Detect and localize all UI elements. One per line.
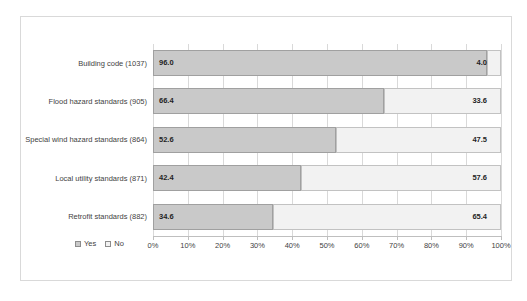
category-axis-labels: Building code (1037)Flood hazard standar… [25,44,147,236]
value-label-no: 4.0 [477,50,487,76]
bar-segment-yes [153,127,336,153]
x-tick-label: 40% [285,241,300,250]
legend-label-yes: Yes [84,239,96,248]
bar-segment-yes [153,88,384,114]
x-tick-mark [292,236,293,240]
x-axis-tick-labels: 0%10%20%30%40%50%60%70%80%90%100% [153,241,501,253]
category-label: Flood hazard standards (905) [25,82,147,120]
bar-segment-no [487,50,501,76]
value-label-yes: 52.6 [159,127,174,153]
x-tick-mark [153,236,154,240]
value-label-no: 57.6 [472,165,487,191]
x-tick-mark [397,236,398,240]
x-tick-mark [223,236,224,240]
x-tick-mark [466,236,467,240]
bar-row: 34.665.4 [153,198,501,236]
bar-row: 42.457.6 [153,159,501,197]
bar-segment-yes [153,165,301,191]
x-tick-label: 100% [491,241,510,250]
x-tick-mark [362,236,363,240]
x-tick-label: 10% [180,241,195,250]
value-label-yes: 42.4 [159,165,174,191]
legend-swatch-no [105,241,111,247]
bar-row: 96.04.0 [153,44,501,82]
x-tick-label: 80% [424,241,439,250]
x-tick-mark [327,236,328,240]
x-tick-label: 20% [215,241,230,250]
category-label: Building code (1037) [25,44,147,82]
category-label: Special wind hazard standards (864) [25,121,147,159]
bar-row: 52.647.5 [153,121,501,159]
category-label: Local utility standards (871) [25,159,147,197]
value-label-yes: 34.6 [159,204,174,230]
x-tick-label: 0% [148,241,159,250]
x-tick-mark [501,236,502,240]
legend-item-no: No [105,239,124,248]
legend: Yes No [75,239,124,248]
bar-segment-no [273,204,501,230]
plot-area: 96.04.066.433.652.647.542.457.634.665.4 [153,44,501,236]
chart-figure: 96.04.066.433.652.647.542.457.634.665.4 … [0,0,527,301]
legend-swatch-yes [75,241,81,247]
bar-row: 66.433.6 [153,82,501,120]
bar-segment-no [301,165,501,191]
x-tick-label: 30% [250,241,265,250]
chart-frame: 96.04.066.433.652.647.542.457.634.665.4 … [20,16,512,281]
x-tick-mark [431,236,432,240]
x-tick-label: 70% [389,241,404,250]
x-tick-label: 50% [319,241,334,250]
value-label-no: 33.6 [472,88,487,114]
category-label: Retrofit standards (882) [25,198,147,236]
x-tick-label: 90% [459,241,474,250]
value-label-yes: 96.0 [159,50,174,76]
x-tick-label: 60% [354,241,369,250]
legend-label-no: No [114,239,124,248]
bar-segment-yes [153,50,487,76]
legend-item-yes: Yes [75,239,96,248]
x-tick-mark [257,236,258,240]
value-label-no: 47.5 [472,127,487,153]
value-label-yes: 66.4 [159,88,174,114]
x-tick-mark [188,236,189,240]
value-label-no: 65.4 [472,204,487,230]
